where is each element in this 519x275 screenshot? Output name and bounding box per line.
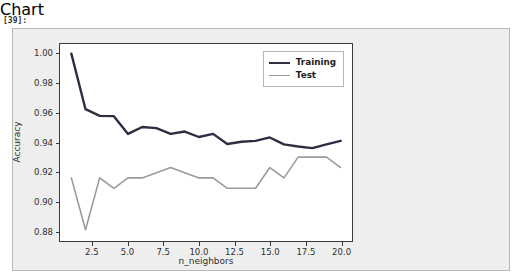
x-tick-mark xyxy=(199,242,200,246)
notebook-cell-prompt: [39]: xyxy=(3,16,27,25)
x-tick-mark xyxy=(306,242,307,246)
x-tick-label: 20.0 xyxy=(332,247,351,257)
y-tick-label: 0.88 xyxy=(21,227,53,237)
matplotlib-figure: Accuracy n_neighbors 0.880.900.920.940.9… xyxy=(13,29,373,272)
x-tick-mark xyxy=(342,242,343,246)
chart-legend: Training Test xyxy=(263,51,344,87)
notebook-output-area: Accuracy n_neighbors 0.880.900.920.940.9… xyxy=(12,28,510,271)
y-tick-label: 0.90 xyxy=(21,197,53,207)
legend-item-training: Training xyxy=(269,56,336,69)
x-tick-label: 2.5 xyxy=(85,247,99,257)
legend-line-icon-training xyxy=(269,62,290,64)
x-tick-label: 12.5 xyxy=(225,247,244,257)
x-tick-label: 5.0 xyxy=(121,247,135,257)
legend-item-test: Test xyxy=(269,69,336,82)
x-tick-mark xyxy=(128,242,129,246)
y-tick-label: 1.00 xyxy=(21,48,53,58)
x-tick-label: 17.5 xyxy=(296,247,315,257)
screenshot-root: [39]: Accuracy n_neighbors 0.880.900.920… xyxy=(0,19,519,275)
line-series-test xyxy=(71,157,340,230)
x-tick-mark xyxy=(163,242,164,246)
x-axis-label: n_neighbors xyxy=(179,256,234,266)
x-tick-label: 7.5 xyxy=(156,247,170,257)
y-tick-label: 0.96 xyxy=(21,108,53,118)
y-tick-label: 0.94 xyxy=(21,138,53,148)
y-tick-label: 0.92 xyxy=(21,167,53,177)
x-tick-mark xyxy=(270,242,271,246)
legend-label-test: Test xyxy=(296,69,316,82)
x-tick-label: 15.0 xyxy=(261,247,280,257)
y-tick-label: 0.98 xyxy=(21,78,53,88)
x-tick-mark xyxy=(235,242,236,246)
legend-line-icon-test xyxy=(269,75,290,76)
x-tick-label: 10.0 xyxy=(189,247,208,257)
plot-axes: Training Test xyxy=(59,43,353,242)
legend-label-training: Training xyxy=(296,56,336,69)
x-tick-mark xyxy=(92,242,93,246)
